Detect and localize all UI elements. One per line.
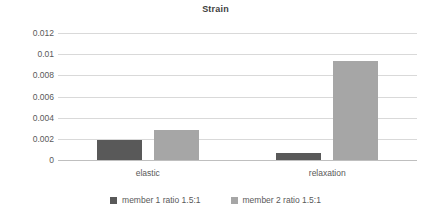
y-axis-tick-label: 0.002: [0, 135, 54, 144]
x-axis-category-label: elastic: [58, 168, 238, 178]
x-axis: elasticrelaxation: [58, 168, 417, 182]
legend-swatch-icon: [231, 197, 238, 204]
bar: [97, 140, 142, 160]
y-axis-tick-label: 0.012: [0, 29, 54, 38]
bar: [276, 153, 321, 160]
y-axis-tick-label: 0.006: [0, 92, 54, 101]
chart-title: Strain: [0, 4, 431, 14]
y-axis-tick-label: 0: [0, 156, 54, 165]
legend-item[interactable]: member 2 ratio 1.5:1: [231, 196, 321, 205]
legend-label: member 1 ratio 1.5:1: [122, 196, 200, 205]
y-axis-tick-label: 0.008: [0, 71, 54, 80]
y-axis-tick-label: 0.004: [0, 113, 54, 122]
gridline: [58, 160, 417, 161]
gridline: [58, 54, 417, 55]
legend-label: member 2 ratio 1.5:1: [243, 196, 321, 205]
legend-item[interactable]: member 1 ratio 1.5:1: [110, 196, 200, 205]
bar-chart: Strain 00.0020.0040.0060.0080.010.012 el…: [0, 0, 431, 219]
bar: [154, 130, 199, 160]
legend-swatch-icon: [110, 197, 117, 204]
gridline: [58, 33, 417, 34]
plot-area: [58, 33, 417, 160]
y-axis: 00.0020.0040.0060.0080.010.012: [0, 33, 54, 160]
y-axis-tick-label: 0.01: [0, 50, 54, 59]
chart-legend: member 1 ratio 1.5:1member 2 ratio 1.5:1: [0, 196, 431, 205]
bar: [333, 61, 378, 160]
x-axis-category-label: relaxation: [238, 168, 418, 178]
